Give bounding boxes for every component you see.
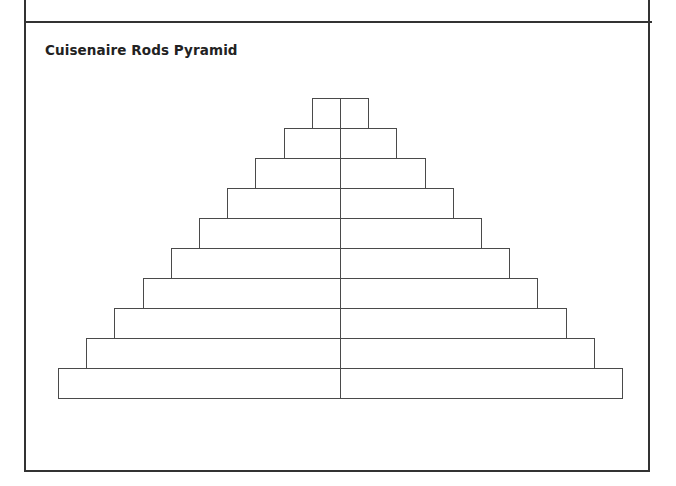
rod-row-2-left — [284, 128, 341, 159]
rod-row-7-left — [143, 278, 341, 309]
rod-row-9-right — [340, 338, 595, 369]
rod-row-8-left — [114, 308, 341, 339]
rod-row-10-right — [340, 368, 623, 399]
rod-row-4-left — [227, 188, 341, 219]
rod-row-5-right — [340, 218, 482, 249]
rod-row-3-left — [255, 158, 341, 189]
rod-row-9-left — [86, 338, 341, 369]
rod-row-5-left — [199, 218, 341, 249]
rod-row-1-right — [340, 98, 369, 129]
rod-row-4-right — [340, 188, 454, 219]
rod-row-10-left — [58, 368, 341, 399]
rod-row-6-right — [340, 248, 510, 279]
rods-pyramid — [0, 0, 676, 486]
rod-row-2-right — [340, 128, 397, 159]
rod-row-7-right — [340, 278, 538, 309]
rod-row-3-right — [340, 158, 426, 189]
rod-row-1-left — [312, 98, 341, 129]
rod-row-6-left — [171, 248, 341, 279]
rod-row-8-right — [340, 308, 567, 339]
